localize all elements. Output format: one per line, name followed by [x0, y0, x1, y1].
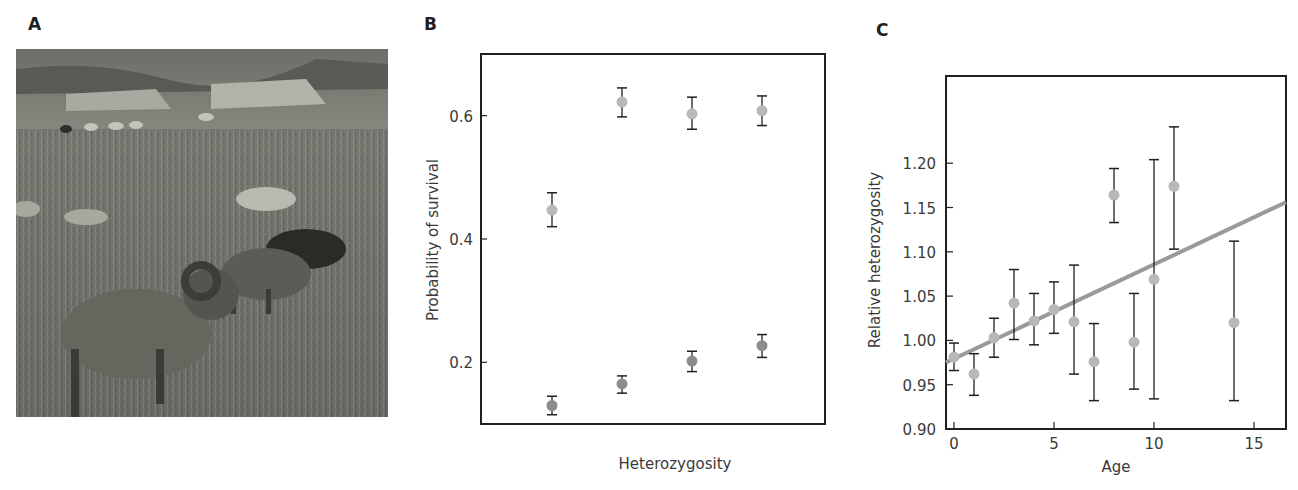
y-tick-label: 1.05 — [903, 288, 936, 306]
data-point — [757, 105, 768, 116]
data-point — [1069, 316, 1080, 327]
data-point — [757, 340, 768, 351]
data-point — [969, 369, 980, 380]
sheep-photo — [16, 49, 388, 417]
y-tick-label: 0.90 — [903, 421, 936, 439]
x-tick-label: 10 — [1144, 435, 1163, 453]
data-series — [949, 127, 1240, 401]
data-point — [1049, 304, 1060, 315]
data-point — [1029, 315, 1040, 326]
data-point — [547, 400, 558, 411]
data-point — [1229, 317, 1240, 328]
plot-frame — [946, 76, 1286, 429]
plot-frame — [481, 54, 825, 424]
x-tick-label: 0 — [949, 435, 959, 453]
data-point — [949, 352, 960, 363]
y-tick-label: 1.10 — [903, 244, 936, 262]
x-axis-label: Age — [1101, 458, 1130, 476]
x-tick-label: 5 — [1049, 435, 1059, 453]
y-axis-label: Relative heterozygosity — [866, 172, 884, 348]
y-tick-label: 1.15 — [903, 200, 936, 218]
y-tick-label: 0.95 — [903, 377, 936, 395]
data-point — [1149, 274, 1160, 285]
y-tick-label: 0.4 — [449, 231, 473, 249]
panel-a-label: A — [28, 14, 41, 34]
heterozygosity-age-chart: 0.900.951.001.051.101.151.20051015AgeRel… — [840, 0, 1298, 490]
data-point — [1129, 337, 1140, 348]
data-point — [1169, 181, 1180, 192]
data-point — [1009, 298, 1020, 309]
y-tick-label: 1.00 — [903, 332, 936, 350]
data-point — [1089, 356, 1100, 367]
data-series — [547, 88, 768, 227]
data-point — [1109, 190, 1120, 201]
x-axis-label: Heterozygosity — [619, 455, 732, 473]
y-tick-label: 1.20 — [903, 155, 936, 173]
y-tick-label: 0.6 — [449, 108, 473, 126]
y-axis-label: Probability of survival — [424, 159, 442, 321]
data-point — [687, 108, 698, 119]
x-tick-label: 15 — [1244, 435, 1263, 453]
photo-illustration — [16, 49, 388, 417]
data-point — [617, 97, 628, 108]
data-point — [547, 205, 558, 216]
y-tick-label: 0.2 — [449, 354, 473, 372]
data-point — [617, 378, 628, 389]
data-series — [547, 335, 768, 415]
data-point — [687, 356, 698, 367]
survival-chart: 0.20.40.6HeterozygosityProbability of su… — [420, 0, 840, 490]
data-point — [989, 332, 1000, 343]
